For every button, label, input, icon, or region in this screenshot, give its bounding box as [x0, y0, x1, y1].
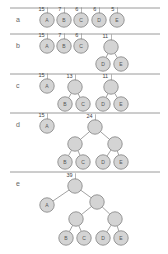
node-circle — [68, 137, 82, 151]
leaf-node-c: C — [77, 231, 91, 245]
tree-edge — [106, 54, 108, 58]
leaf-node-d: D6 — [92, 6, 106, 27]
step-d: dA1524BCDE — [10, 112, 160, 169]
leaf-node-a: A15 — [38, 72, 54, 93]
node-label: D — [101, 61, 105, 67]
tree-edge — [100, 132, 109, 140]
tree-edge — [80, 132, 89, 140]
weight-label: 11 — [102, 33, 108, 39]
tree-edge — [107, 225, 111, 232]
tree-edge — [82, 207, 92, 215]
leaf-node-e: E — [114, 231, 128, 245]
leaf-node-d: D — [96, 97, 110, 111]
weight-label: 7 — [58, 32, 61, 38]
weight-label: 6 — [75, 32, 78, 38]
internal-node: 11 — [102, 73, 118, 94]
leaf-node-c: C6 — [74, 32, 88, 53]
node-label: D — [101, 101, 105, 107]
tree-edge — [106, 94, 108, 98]
tree-edge — [68, 150, 71, 155]
tree-edge — [69, 225, 72, 231]
node-label: C — [82, 235, 86, 241]
leaf-node-a: A15 — [38, 32, 54, 53]
leaf-node-b: B — [58, 155, 72, 169]
node-label: C — [79, 43, 83, 49]
internal-node — [108, 212, 122, 226]
tree-edge — [69, 93, 72, 98]
leaf-node-b: B7 — [57, 6, 71, 27]
leaf-node-c: C6 — [74, 6, 88, 27]
tree-edge — [81, 190, 91, 198]
weight-label: 13 — [66, 73, 72, 79]
leaf-node-a: A15 — [38, 112, 54, 133]
leaf-node-c: C — [76, 155, 90, 169]
node-label: D — [97, 17, 101, 23]
tree-edge — [79, 226, 81, 232]
step-label: d — [16, 121, 20, 128]
step-c: cA151311BCDE — [10, 72, 160, 111]
step-b: bA15B7C611DE — [10, 32, 160, 71]
node-circle — [108, 137, 122, 151]
weight-label: 6 — [93, 6, 96, 12]
weight-label: 15 — [38, 72, 44, 78]
tree-edge — [115, 93, 118, 98]
step-a: aA15B7C6D6E5 — [10, 6, 160, 27]
tree-edge — [115, 53, 118, 58]
node-circle — [68, 179, 82, 193]
node-label: C — [81, 101, 85, 107]
internal-node — [68, 137, 82, 151]
leaf-node-b: B7 — [57, 32, 71, 53]
node-label: D — [101, 159, 105, 165]
node-circle — [104, 80, 118, 94]
node-label: D — [101, 235, 105, 241]
leaf-node-e: E — [114, 57, 128, 71]
step-e: e39ABCDE — [10, 172, 160, 245]
leaf-node-d: D — [96, 231, 110, 245]
step-label: c — [16, 82, 20, 89]
leaf-node-d: D — [96, 57, 110, 71]
internal-node: 39 — [66, 172, 82, 193]
node-label: C — [81, 159, 85, 165]
leaf-node-a: A15 — [38, 6, 54, 27]
internal-node — [90, 195, 104, 209]
weight-label: 39 — [66, 172, 72, 178]
leaf-node-a: A — [40, 198, 54, 212]
node-circle — [88, 120, 102, 134]
weight-label: 6 — [75, 6, 78, 12]
weight-label: 24 — [86, 113, 92, 119]
step-label: e — [16, 180, 20, 187]
internal-node: 13 — [66, 73, 82, 94]
internal-node: 11 — [102, 33, 118, 54]
weight-label: 15 — [38, 6, 44, 12]
internal-node: 24 — [86, 113, 102, 134]
step-label: a — [16, 16, 20, 23]
node-label: C — [79, 17, 83, 23]
leaf-node-d: D — [96, 155, 110, 169]
tree-edge — [117, 226, 119, 231]
tree-edge — [107, 150, 111, 156]
internal-node — [69, 212, 83, 226]
step-label: b — [16, 42, 20, 49]
node-circle — [90, 195, 104, 209]
tree-edge — [53, 190, 69, 201]
huffman-diagram: aA15B7C6D6E5bA15B7C611DEcA151311BCDEdA15… — [0, 0, 168, 254]
tree-edge — [78, 151, 80, 156]
node-circle — [108, 212, 122, 226]
weight-label: 5 — [111, 6, 114, 12]
tree-edge — [102, 207, 110, 214]
internal-node — [108, 137, 122, 151]
leaf-node-e: E — [114, 155, 128, 169]
node-circle — [69, 212, 83, 226]
node-circle — [104, 40, 118, 54]
node-circle — [68, 80, 82, 94]
leaf-node-b: B — [58, 97, 72, 111]
weight-label: 7 — [58, 6, 61, 12]
tree-edge — [117, 151, 118, 155]
tree-edge — [78, 94, 80, 98]
leaf-node-c: C — [76, 97, 90, 111]
leaf-node-b: B — [59, 231, 73, 245]
weight-label: 15 — [38, 32, 44, 38]
leaf-node-e: E5 — [110, 6, 124, 27]
leaf-node-e: E — [114, 97, 128, 111]
weight-label: 11 — [102, 73, 108, 79]
